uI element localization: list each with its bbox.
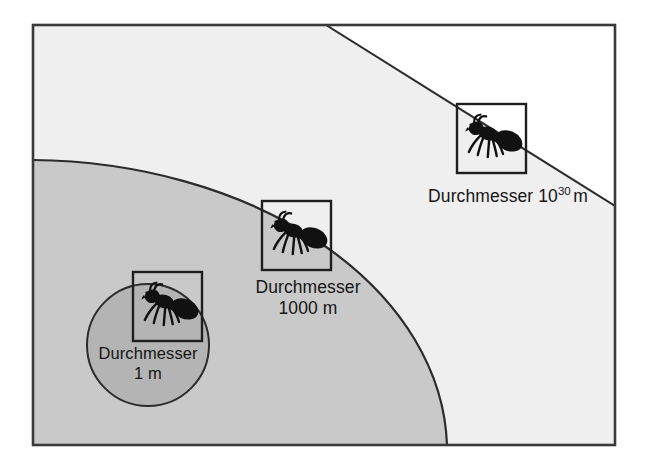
label-diameter-outer-prefix: Durchmesser — [428, 186, 533, 206]
scale-comparison-figure: Durchmesser 1030m Durchmesser 1000 m Dur… — [0, 0, 648, 469]
ant-box-large — [457, 104, 526, 173]
label-diameter-outer: Durchmesser 1030m — [428, 186, 588, 207]
label-diameter-small-line2: 1 m — [98, 364, 197, 384]
label-diameter-mid-line1: Durchmesser — [255, 277, 360, 297]
label-diameter-outer-unit: m — [573, 186, 588, 206]
label-diameter-small: Durchmesser 1 m — [98, 344, 197, 384]
figure-canvas — [0, 0, 648, 469]
label-diameter-mid: Durchmesser 1000 m — [255, 277, 360, 320]
label-diameter-small-line1: Durchmesser — [98, 344, 197, 362]
label-diameter-outer-exponent: 30 — [558, 185, 571, 197]
label-diameter-outer-base: 10 — [538, 186, 558, 206]
label-diameter-mid-line2: 1000 m — [255, 298, 360, 319]
